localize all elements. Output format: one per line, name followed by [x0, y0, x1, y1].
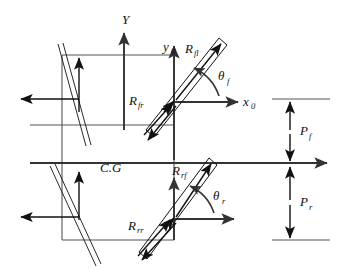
label-dimension-rear-symbol: P [299, 194, 308, 209]
label-force-front-right-symbol: R [128, 93, 137, 108]
label-force-front-right-sub: fr [138, 100, 144, 110]
label-angle-front-symbol: θ [218, 68, 225, 83]
label-force-front-left: R fl [184, 41, 199, 58]
vehicle-dynamics-diagram: Y y 0 x 0 R fl R fr R rf R rr [0, 0, 340, 279]
force-arrow-front-right-lateral [148, 106, 176, 140]
label-angle-rear: θ r [213, 188, 226, 206]
label-angle-front: θ f [218, 68, 231, 86]
label-force-front-left-symbol: R [184, 41, 193, 56]
label-force-rear-front-sub: rf [181, 170, 188, 180]
label-dimension-rear: P r [299, 194, 313, 212]
label-angle-rear-symbol: θ [213, 188, 220, 203]
label-force-front-right: R fr [128, 93, 144, 110]
wheel-rear-left [50, 164, 101, 266]
diagram-canvas: Y y 0 x 0 R fl R fr R rf R rr [0, 0, 340, 279]
label-axis-local-y0-symbol: y [161, 39, 169, 54]
label-force-rear-rear-sub: rr [137, 225, 144, 235]
label-axis-global-y: Y [122, 12, 131, 27]
label-force-rear-rear: R rr [127, 218, 144, 235]
label-dimension-front: P f [299, 123, 313, 141]
vehicle-body-upper [30, 55, 174, 163]
label-force-rear-rear-symbol: R [127, 218, 136, 233]
label-center-of-gravity: C.G [100, 160, 122, 175]
label-axis-local-x0-sub: 0 [251, 101, 256, 111]
label-dimension-rear-sub: r [309, 202, 313, 212]
label-axis-local-x0: x 0 [242, 94, 256, 111]
wheel-front-left [58, 43, 91, 146]
label-dimension-front-symbol: P [299, 123, 308, 138]
label-axis-local-x0-symbol: x [242, 94, 249, 109]
label-axis-local-y0-sub: 0 [171, 46, 176, 56]
label-angle-front-sub: f [227, 76, 231, 86]
label-force-rear-front-symbol: R [171, 163, 180, 178]
label-force-front-left-sub: fl [194, 48, 199, 58]
label-force-rear-front: R rf [171, 163, 188, 180]
label-angle-rear-sub: r [222, 196, 226, 206]
label-dimension-front-sub: f [309, 131, 313, 141]
label-axis-local-y0: y 0 [161, 39, 176, 56]
